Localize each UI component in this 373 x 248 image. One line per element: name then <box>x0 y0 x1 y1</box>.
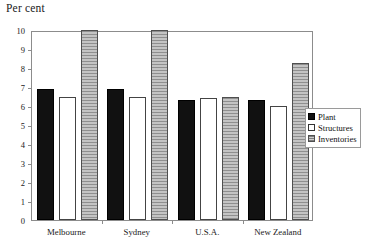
legend-label-structures: Structures <box>318 123 353 133</box>
x-axis-tick-mark <box>102 221 103 224</box>
chart-legend: Plant Structures Inventories <box>305 108 361 148</box>
legend-item-inventories[interactable]: Inventories <box>308 133 357 144</box>
legend-swatch-plant-icon <box>308 113 315 120</box>
y-axis-tick-label: 9 <box>3 45 25 55</box>
legend-item-structures[interactable]: Structures <box>308 122 357 133</box>
bar-structures-new-zealand <box>270 106 287 220</box>
legend-label-inventories: Inventories <box>318 134 357 144</box>
y-axis-tick-label: 5 <box>3 121 25 131</box>
x-axis-category-label: U.S.A. <box>195 227 219 237</box>
bar-structures-sydney <box>129 97 146 220</box>
bar-plant-melbourne <box>37 89 54 220</box>
y-axis-tick-label: 6 <box>3 102 25 112</box>
bar-inventories-melbourne <box>81 30 98 220</box>
bar-plant-new-zealand <box>248 100 265 220</box>
plot-inner <box>32 32 312 220</box>
legend-item-plant[interactable]: Plant <box>308 111 357 122</box>
x-axis-category-label: Sydney <box>124 227 150 237</box>
x-axis-tick-mark <box>172 221 173 224</box>
y-axis-tick-label: 2 <box>3 178 25 188</box>
legend-swatch-structures-icon <box>308 124 315 131</box>
bar-plant-u-s-a <box>178 100 195 220</box>
legend-swatch-inventories-icon <box>308 135 315 142</box>
bar-plant-sydney <box>107 89 124 220</box>
bar-structures-u-s-a <box>200 98 217 220</box>
bar-structures-melbourne <box>59 97 76 220</box>
bar-inventories-u-s-a <box>222 97 239 221</box>
x-axis-tick-mark <box>243 221 244 224</box>
y-axis-tick-label: 4 <box>3 140 25 150</box>
plot-area <box>31 31 313 221</box>
y-axis-tick-label: 3 <box>3 159 25 169</box>
y-axis-tick-label: 1 <box>3 197 25 207</box>
y-axis-tick-label: 10 <box>3 26 25 36</box>
legend-label-plant: Plant <box>318 112 336 122</box>
y-axis-tick-label: 8 <box>3 64 25 74</box>
chart-figure: Per cent 012345678910 MelbourneSydneyU.S… <box>0 0 373 248</box>
y-axis-tick-label: 7 <box>3 83 25 93</box>
x-axis-category-label: New Zealand <box>254 227 301 237</box>
bar-inventories-sydney <box>151 30 168 220</box>
y-axis-title: Per cent <box>6 2 45 14</box>
x-axis-category-label: Melbourne <box>47 227 86 237</box>
y-axis-tick-label: 0 <box>3 216 25 226</box>
